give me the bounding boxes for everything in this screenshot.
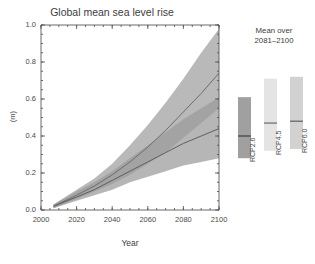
- x-tick-label: 2020: [62, 215, 92, 224]
- y-tick-label: 1.0: [14, 20, 36, 29]
- y-tick-label: 0.4: [14, 131, 36, 140]
- y-tick-label: 0.8: [14, 57, 36, 66]
- y-tick-label: 0.0: [14, 205, 36, 214]
- y-tick-label: 0.2: [14, 168, 36, 177]
- range-bar-label-rcp6-0: RCP6.0: [301, 107, 308, 153]
- x-tick-label: 2080: [168, 215, 198, 224]
- x-tick-label: 2040: [97, 215, 127, 224]
- uncertainty-bands: [53, 29, 219, 208]
- x-tick-label: 2060: [133, 215, 163, 224]
- x-tick-label: 2000: [26, 215, 56, 224]
- range-bar-label-rcp4-5: RCP4.5: [275, 109, 282, 155]
- x-tick-label: 2100: [204, 215, 234, 224]
- chart-canvas: [0, 0, 315, 264]
- sea-level-rise-figure: Global mean sea level rise (m) Year Mean…: [0, 0, 315, 264]
- range-bar-label-rcp2-6: RCP2.6: [249, 116, 256, 162]
- y-tick-label: 0.6: [14, 94, 36, 103]
